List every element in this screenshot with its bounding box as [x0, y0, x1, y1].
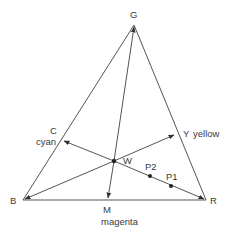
labels: G B R W C cyan Y yellow M magenta P2 P1: [10, 9, 220, 227]
label-g: G: [130, 9, 137, 20]
label-y: Y: [183, 128, 190, 139]
point-p1-marker: [169, 184, 173, 188]
line-w-c: [64, 141, 114, 161]
white-point-marker: [112, 159, 116, 163]
label-b: B: [10, 195, 16, 206]
label-cyan: cyan: [36, 136, 56, 147]
label-magenta: magenta: [101, 216, 139, 227]
label-m: M: [103, 204, 111, 215]
triangle: [23, 25, 206, 200]
line-w-b: [25, 161, 114, 199]
label-w: W: [123, 155, 132, 166]
label-p1: P1: [166, 171, 178, 182]
label-c: C: [50, 125, 57, 136]
color-triangle-diagram: G B R W C cyan Y yellow M magenta P2 P1: [0, 0, 229, 235]
label-yellow: yellow: [193, 128, 220, 139]
line-w-m: [108, 161, 114, 198]
line-w-g: [114, 27, 134, 161]
line-w-r: [114, 161, 204, 199]
label-p2: P2: [145, 161, 157, 172]
label-r: R: [210, 195, 217, 206]
point-p2-marker: [148, 174, 152, 178]
edge-g-b: [23, 25, 134, 200]
